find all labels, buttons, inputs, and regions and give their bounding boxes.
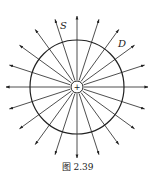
field-line-arrow <box>20 91 72 129</box>
field-line-arrow <box>55 94 75 155</box>
field-line-arrow <box>83 91 135 129</box>
field-line-arrow <box>79 19 99 80</box>
plus-sign-icon: + <box>74 83 81 92</box>
field-line-arrow <box>9 89 70 109</box>
field-label-d: D <box>118 38 126 49</box>
field-lines-diagram: + <box>0 0 155 187</box>
field-line-arrow <box>83 45 135 83</box>
field-line-arrow <box>81 93 119 145</box>
field-line-arrow <box>81 30 119 82</box>
surface-label-s: S <box>60 20 67 31</box>
field-line-arrow <box>35 30 73 82</box>
field-line-arrow <box>84 89 145 109</box>
field-line-arrow <box>35 93 73 145</box>
field-line-arrow <box>84 65 145 85</box>
figure-caption: 图 2.39 <box>0 160 155 173</box>
field-line-arrow <box>9 65 70 85</box>
field-line-arrow <box>79 94 99 155</box>
field-line-arrow <box>20 45 72 83</box>
